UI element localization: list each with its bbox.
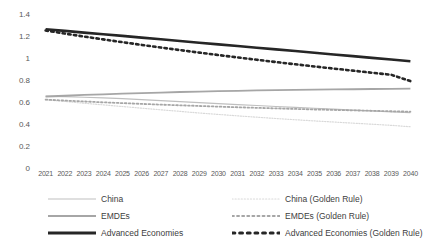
legend-label: EMDEs (Golden Rule): [285, 211, 369, 221]
legend-swatch-icon: [232, 228, 280, 238]
y-axis-tick-label: 1.4: [19, 10, 30, 19]
series-line: [46, 89, 411, 97]
x-axis-tick-label: 2021: [36, 170, 55, 177]
line-chart: 00.20.40.60.811.21.4 2021202220232024202…: [0, 0, 431, 245]
legend-swatch-icon: [232, 194, 280, 204]
series-lines: [36, 0, 420, 190]
legend-column-left: ChinaEMDEsAdvanced Economies: [48, 192, 183, 243]
x-axis-tick-label: 2028: [170, 170, 189, 177]
legend-item[interactable]: EMDEs: [48, 209, 183, 223]
legend-label: China: [101, 194, 123, 204]
plot-wrapper: 00.20.40.60.811.21.4 2021202220232024202…: [0, 0, 431, 190]
plot-area: [36, 0, 420, 190]
x-axis-tick-label: 2030: [209, 170, 228, 177]
x-axis-tick-label: 2036: [324, 170, 343, 177]
x-axis-tick-label: 2040: [401, 170, 420, 177]
legend-item[interactable]: Advanced Economies (Golden Rule): [232, 226, 423, 240]
x-axis-tick-label: 2026: [132, 170, 151, 177]
legend-swatch-icon: [48, 228, 96, 238]
legend-swatch-icon: [48, 194, 96, 204]
x-axis-tick-labels: 2021202220232024202520262027202820292030…: [36, 170, 420, 186]
y-axis-tick-label: 0.4: [19, 120, 30, 129]
x-axis-tick-label: 2023: [74, 170, 93, 177]
legend-column-right: China (Golden Rule)EMDEs (Golden Rule)Ad…: [232, 192, 423, 243]
y-axis-tick-label: 1: [26, 54, 30, 63]
y-axis-tick-labels: 00.20.40.60.811.21.4: [0, 0, 34, 190]
x-axis-tick-label: 2031: [228, 170, 247, 177]
x-axis-tick-label: 2022: [55, 170, 74, 177]
legend-label: China (Golden Rule): [285, 194, 362, 204]
x-axis-tick-label: 2039: [382, 170, 401, 177]
y-axis-tick-label: 0: [26, 164, 30, 173]
y-axis-tick-label: 0.8: [19, 76, 30, 85]
chart-legend: ChinaEMDEsAdvanced Economies China (Gold…: [0, 192, 431, 245]
x-axis-tick-label: 2035: [305, 170, 324, 177]
legend-item[interactable]: China: [48, 192, 183, 206]
x-axis-tick-label: 2025: [113, 170, 132, 177]
x-axis-tick-label: 2027: [151, 170, 170, 177]
series-line: [46, 100, 411, 112]
legend-swatch-icon: [232, 211, 280, 221]
y-axis-tick-label: 0.2: [19, 142, 30, 151]
y-axis-tick-label: 0.6: [19, 98, 30, 107]
legend-label: Advanced Economies (Golden Rule): [285, 228, 423, 238]
x-axis-tick-label: 2037: [343, 170, 362, 177]
legend-item[interactable]: China (Golden Rule): [232, 192, 423, 206]
legend-swatch-icon: [48, 211, 96, 221]
legend-label: Advanced Economies: [101, 228, 183, 238]
x-axis-tick-label: 2033: [266, 170, 285, 177]
x-axis-tick-label: 2024: [94, 170, 113, 177]
legend-label: EMDEs: [101, 211, 130, 221]
x-axis-tick-label: 2032: [247, 170, 266, 177]
legend-item[interactable]: EMDEs (Golden Rule): [232, 209, 423, 223]
x-axis-tick-label: 2034: [286, 170, 305, 177]
legend-item[interactable]: Advanced Economies: [48, 226, 183, 240]
x-axis-tick-label: 2029: [190, 170, 209, 177]
x-axis-tick-label: 2038: [362, 170, 381, 177]
y-axis-tick-label: 1.2: [19, 32, 30, 41]
